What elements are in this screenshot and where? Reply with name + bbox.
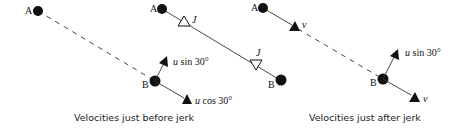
dashed-string (38, 11, 155, 81)
arrowhead-icon (409, 92, 420, 102)
arrowhead-icon (159, 56, 168, 67)
taut-string (162, 9, 280, 80)
arrow-shaft (383, 79, 411, 95)
arrow-shaft (155, 81, 184, 98)
label-v-b: v (423, 93, 428, 104)
arrow-shaft (383, 57, 394, 79)
dashed-string (298, 29, 383, 79)
label-u-cos-30: u cos 30° (195, 95, 232, 106)
particle-a (157, 4, 167, 14)
label-j-bottom: J (256, 47, 261, 58)
label-u-sin-30: u sin 30° (173, 56, 209, 67)
label-u-sin-30: u sin 30° (405, 47, 441, 58)
solid-segment (263, 8, 292, 25)
label-a: A (251, 2, 259, 13)
diagram-canvas: A B u sin 30° u cos 30° Velocities just … (0, 0, 463, 132)
particle-a (258, 3, 268, 13)
caption-before: Velocities just before jerk (74, 112, 194, 123)
arrowhead-icon (289, 21, 300, 31)
panel-before-jerk: A B u sin 30° u cos 30° Velocities just … (25, 5, 232, 123)
panel-after-jerk: A v B u sin 30° v Velocities just after … (251, 2, 441, 123)
label-j-top: J (192, 14, 197, 25)
particle-a (33, 6, 43, 16)
label-b: B (370, 77, 377, 88)
label-b: B (142, 79, 149, 90)
label-a: A (25, 5, 33, 16)
caption-after: Velocities just after jerk (309, 112, 421, 123)
arrowhead-icon (390, 49, 399, 60)
panel-impulse: A B J J (150, 3, 287, 90)
label-v-a: v (302, 19, 307, 30)
particle-b (276, 75, 287, 86)
arrowhead-icon (182, 94, 192, 104)
impulse-triangle-icon (178, 16, 190, 26)
jerk-velocity-diagram: A B u sin 30° u cos 30° Velocities just … (0, 0, 463, 132)
label-b: B (268, 79, 275, 90)
label-a: A (150, 3, 158, 14)
